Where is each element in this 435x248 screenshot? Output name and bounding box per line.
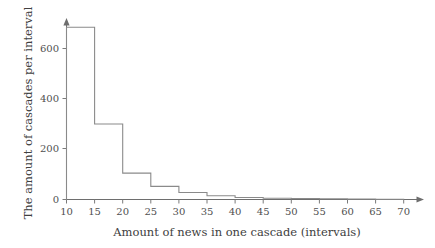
x-tick-marks: [67, 200, 404, 204]
y-axis-title: The amount of cascades per interval: [21, 6, 35, 219]
x-tick-label-55: 55: [313, 206, 326, 217]
x-tick-label-70: 70: [397, 206, 410, 217]
x-tick-label-50: 50: [285, 206, 298, 217]
y-tick-label-200: 200: [40, 143, 59, 154]
y-tick-marks: [63, 49, 67, 200]
y-tick-label-400: 400: [40, 93, 59, 104]
x-axis-title: Amount of news in one cascade (intervals…: [112, 225, 360, 239]
x-tick-label-15: 15: [88, 206, 101, 217]
chart-canvas: 0 200 400 600 The amount of cascades per…: [0, 0, 435, 248]
y-tick-label-0: 0: [53, 194, 59, 205]
y-tick-label-600: 600: [40, 43, 59, 54]
x-tick-label-30: 30: [173, 206, 186, 217]
x-tick-label-65: 65: [369, 206, 382, 217]
x-tick-label-60: 60: [341, 206, 354, 217]
x-tick-label-20: 20: [116, 206, 129, 217]
y-axis-group: 0 200 400 600 The amount of cascades per…: [21, 6, 70, 219]
x-tick-label-35: 35: [201, 206, 214, 217]
histogram-figure: 0 200 400 600 The amount of cascades per…: [0, 0, 435, 248]
x-tick-label-45: 45: [257, 206, 270, 217]
x-tick-label-10: 10: [60, 206, 73, 217]
y-axis-arrow-icon: [63, 18, 69, 26]
x-tick-label-40: 40: [229, 206, 242, 217]
x-axis-group: 10 15 20 25 30 35 40 45 50 55 60 65 70 A…: [60, 196, 424, 239]
histogram-step-outline: [67, 27, 404, 199]
x-axis-arrow-icon: [417, 196, 425, 202]
x-tick-label-25: 25: [144, 206, 157, 217]
